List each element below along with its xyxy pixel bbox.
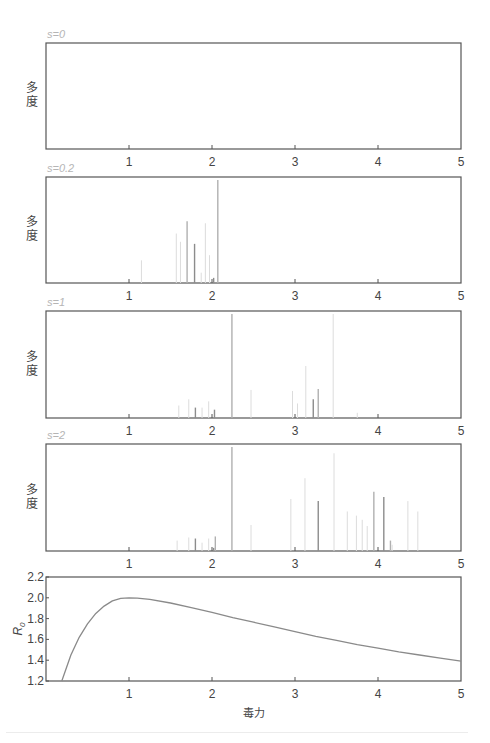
x-tick-label: 3: [292, 557, 299, 571]
plot-frame: [46, 311, 461, 418]
x-tick-label: 2: [209, 155, 216, 169]
panel-title: s=2: [47, 429, 65, 441]
x-tick-label: 5: [458, 289, 465, 303]
x-tick-label: 4: [375, 557, 382, 571]
y-axis-label: 多: [26, 483, 38, 497]
panel-3: 12345s=1多度: [26, 296, 465, 438]
y-tick-label: 1.8: [27, 612, 44, 626]
y-axis-label: 度: [26, 363, 38, 378]
panel-title: s=0: [47, 28, 66, 40]
x-tick-label: 1: [126, 289, 133, 303]
plot-frame: [46, 444, 461, 551]
x-tick-label: 3: [292, 687, 299, 701]
x-tick-label: 3: [292, 424, 299, 438]
x-tick-label: 4: [375, 424, 382, 438]
x-tick-label: 4: [375, 155, 382, 169]
x-tick-label: 1: [126, 155, 133, 169]
y-axis-label: 多: [26, 215, 38, 229]
panel-5: 123451.21.41.61.82.02.2R0毒力: [11, 570, 465, 720]
y-tick-label: 2.2: [27, 570, 44, 584]
panel-title: s=1: [47, 296, 65, 308]
x-tick-label: 5: [458, 687, 465, 701]
r0-curve: [62, 598, 461, 681]
x-tick-label: 2: [209, 289, 216, 303]
x-tick-label: 3: [292, 155, 299, 169]
x-tick-label: 2: [209, 687, 216, 701]
y-tick-label: 2.0: [27, 591, 44, 605]
panel-title: s=0.2: [47, 162, 74, 174]
plot-frame: [46, 577, 461, 681]
y-tick-label: 1.6: [27, 632, 44, 646]
figure: 12345s=0多度12345s=0.2多度12345s=1多度12345s=2…: [0, 0, 490, 743]
panel-4: 12345s=2多度: [26, 429, 465, 571]
panel-2: 12345s=0.2多度: [26, 162, 465, 303]
x-tick-label: 5: [458, 155, 465, 169]
y-axis-label: 度: [26, 496, 38, 511]
y-tick-label: 1.4: [27, 653, 44, 667]
y-axis-label: 多: [26, 350, 38, 364]
y-axis-label: 度: [26, 228, 38, 243]
y-tick-label: 1.2: [27, 674, 44, 688]
divider: [6, 732, 468, 733]
x-tick-label: 2: [209, 424, 216, 438]
x-tick-label: 1: [126, 557, 133, 571]
x-axis-label: 毒力: [243, 707, 265, 720]
panel-1: 12345s=0多度: [26, 28, 465, 169]
x-tick-label: 1: [126, 424, 133, 438]
y-axis-label: 度: [26, 94, 38, 109]
plot-frame: [46, 43, 461, 149]
x-tick-label: 4: [375, 687, 382, 701]
x-tick-label: 3: [292, 289, 299, 303]
x-tick-label: 5: [458, 424, 465, 438]
x-tick-label: 4: [375, 289, 382, 303]
x-tick-label: 1: [126, 687, 133, 701]
y-axis-label: 多: [26, 81, 38, 95]
plot-frame: [46, 177, 461, 283]
x-tick-label: 5: [458, 557, 465, 571]
x-tick-label: 2: [209, 557, 216, 571]
y-axis-label: R0: [11, 622, 27, 636]
